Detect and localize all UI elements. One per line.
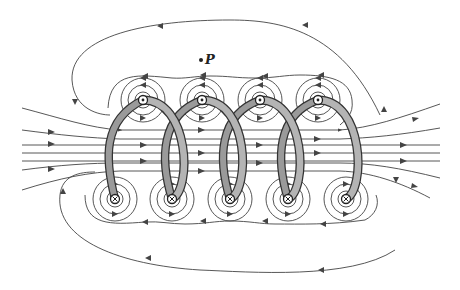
current-in-icon <box>342 195 351 204</box>
point-p-label: P <box>204 52 216 67</box>
current-in-icon <box>111 195 120 204</box>
point-p: P <box>199 52 216 67</box>
current-in-icon <box>168 195 177 204</box>
current-out-icon <box>314 96 323 105</box>
solenoid-field-diagram: P <box>0 0 460 290</box>
point-p-dot <box>199 58 203 62</box>
bottom-wire-cross-sections <box>111 195 351 204</box>
current-in-icon <box>284 195 293 204</box>
current-out-icon <box>198 96 207 105</box>
top-wire-cross-sections <box>139 96 323 105</box>
current-out-icon <box>139 96 148 105</box>
current-out-icon <box>256 96 265 105</box>
current-in-icon <box>226 195 235 204</box>
